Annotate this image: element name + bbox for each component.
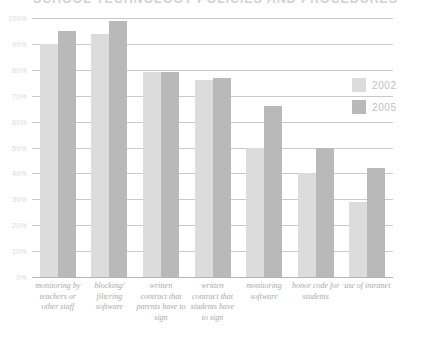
x-axis-category-label: written contract that students have to s… [187,281,239,339]
bar-group [290,18,342,277]
bar [316,148,334,278]
y-axis-tick-label: 100% [8,15,27,22]
legend-swatch [352,100,366,114]
bar [109,21,127,277]
legend-item[interactable]: 2002 [352,74,426,96]
bar-group [135,18,187,277]
chart-legend: 20022005 [352,74,426,118]
bar-group [238,18,290,277]
bar [264,106,282,277]
bar-group [84,18,136,277]
bar [246,148,264,278]
y-axis-tick-label: 60% [12,118,27,125]
x-axis-labels: monitoring by teachers or other staffblo… [32,281,393,339]
bar [349,202,367,277]
x-axis-category-label: blocking/ filtering software [84,281,136,339]
y-axis-tick-label: 10% [12,248,27,255]
x-axis-category-label: monitoring by teachers or other staff [32,281,84,339]
y-axis-tick-label: 30% [12,196,27,203]
x-axis-category-label: honor code for students [290,281,342,339]
y-axis-tick-label: 20% [12,222,27,229]
bar-group [32,18,84,277]
x-axis-category-label: monitoring software [238,281,290,339]
bar [195,80,213,277]
bar [143,72,161,277]
bar [58,31,76,277]
bar [367,168,385,277]
bar-groups [32,18,393,277]
y-axis-tick-label: 80% [12,66,27,73]
legend-label: 2002 [372,80,397,91]
y-axis-tick-label: 50% [12,144,27,151]
y-axis-tick-label: 70% [12,92,27,99]
bar [91,34,109,277]
bar [40,44,58,277]
legend-swatch [352,78,366,92]
bar-chart: SCHOOL TECHNOLOGY POLICIES AND PROCEDURE… [0,0,431,342]
bar [213,78,231,277]
y-axis-tick-label: 90% [12,40,27,47]
bar [298,173,316,277]
y-axis-tick-label: 0% [16,274,27,281]
chart-title: SCHOOL TECHNOLOGY POLICIES AND PROCEDURE… [0,0,431,7]
gridline: 0% [32,277,393,278]
plot-area: 100%90%80%70%60%50%40%30%20%10%0% [32,18,393,277]
x-axis-category-label: use of intranet [341,281,393,339]
bar-group [187,18,239,277]
x-axis-category-label: written contract that parents have to si… [135,281,187,339]
legend-item[interactable]: 2005 [352,96,426,118]
bar-group [341,18,393,277]
bar [161,72,179,277]
y-axis-tick-label: 40% [12,170,27,177]
legend-label: 2005 [372,102,397,113]
